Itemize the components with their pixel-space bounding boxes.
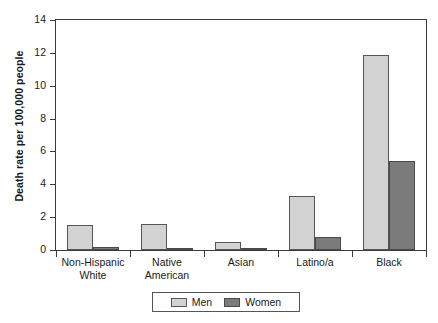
bar-women [167, 248, 193, 250]
y-tick-mark [50, 20, 55, 21]
legend-swatch-men [171, 298, 187, 307]
x-axis-label-line: Native [130, 256, 204, 269]
bar-group [56, 20, 130, 250]
legend-item[interactable]: Women [224, 296, 281, 308]
chart-legend: MenWomen [152, 292, 300, 312]
y-tick-mark [50, 184, 55, 185]
y-tick-label: 12 [34, 46, 46, 58]
x-axis-label: Latino/a [278, 256, 352, 269]
bar-men [67, 225, 93, 250]
bar-men [215, 242, 241, 250]
y-tick-label: 8 [40, 112, 46, 124]
bar-group [130, 20, 204, 250]
y-tick-label: 4 [40, 177, 46, 189]
y-tick-label: 0 [40, 243, 46, 255]
legend-item[interactable]: Men [171, 296, 212, 308]
y-tick-label: 14 [34, 13, 46, 25]
bar-men [363, 55, 389, 251]
x-axis-label-line: Non-Hispanic [56, 256, 130, 269]
bar-chart: Death rate per 100,000 people 0246810121… [0, 0, 438, 323]
x-axis-label: Asian [204, 256, 278, 269]
x-axis-label: NativeAmerican [130, 256, 204, 281]
x-axis-label-line: Latino/a [278, 256, 352, 269]
x-axis-label-line: American [130, 269, 204, 282]
y-tick-mark [50, 151, 55, 152]
x-axis-label-line: White [56, 269, 130, 282]
y-tick-label: 6 [40, 144, 46, 156]
legend-label: Women [245, 296, 281, 308]
legend-label: Men [192, 296, 212, 308]
bars-container [56, 20, 426, 250]
bar-group [352, 20, 426, 250]
x-axis-label: Non-HispanicWhite [56, 256, 130, 281]
y-tick-mark [50, 119, 55, 120]
y-tick-mark [50, 250, 55, 251]
bar-group [278, 20, 352, 250]
y-tick-label: 2 [40, 210, 46, 222]
x-axis-label-line: Asian [204, 256, 278, 269]
y-tick-mark [50, 53, 55, 54]
legend-swatch-women [224, 298, 240, 307]
bar-group [204, 20, 278, 250]
x-tick-mark [426, 251, 427, 257]
bar-women [389, 161, 415, 250]
bar-women [93, 247, 119, 250]
y-tick-mark [50, 86, 55, 87]
bar-men [141, 224, 167, 250]
y-tick-label: 10 [34, 79, 46, 91]
bar-men [289, 196, 315, 250]
x-axis-label-line: Black [352, 256, 426, 269]
bar-women [315, 237, 341, 250]
bar-women [241, 248, 267, 250]
x-axis-label: Black [352, 256, 426, 269]
y-tick-mark [50, 217, 55, 218]
